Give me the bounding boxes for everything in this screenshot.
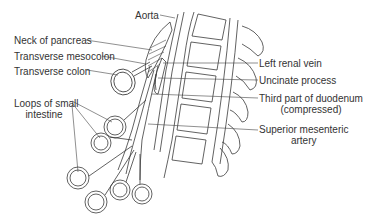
label-loops-line2: intestine (14, 109, 74, 120)
mesentery-bundle (118, 66, 156, 180)
label-neck-of-pancreas: Neck of pancreas (14, 35, 92, 46)
label-transverse-colon: Transverse colon (14, 66, 90, 77)
label-duodenum-line2: (compressed) (259, 104, 363, 115)
label-sma-line2: artery (259, 135, 348, 146)
label-superior-mesenteric-artery: Superior mesenteric artery (259, 124, 348, 146)
label-left-renal-vein: Left renal vein (259, 58, 322, 69)
label-loops-line1: Loops of small (14, 98, 74, 109)
label-third-part-duodenum: Third part of duodenum (compressed) (259, 93, 363, 115)
small-intestine-loops (67, 100, 152, 213)
label-sma-line1: Superior mesenteric (259, 124, 348, 135)
label-uncinate-process: Uncinate process (259, 75, 336, 86)
label-loops-of-small-intestine: Loops of small intestine (14, 98, 74, 120)
label-transverse-mesocolon: Transverse mesocolon (14, 51, 115, 62)
label-duodenum-line1: Third part of duodenum (259, 93, 363, 104)
label-aorta: Aorta (135, 10, 159, 21)
